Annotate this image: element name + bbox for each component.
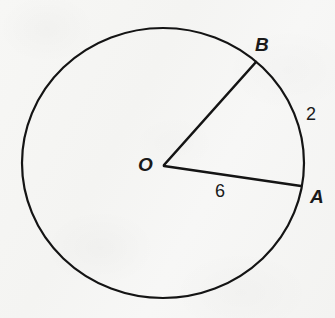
point-label-o: O [138, 155, 153, 174]
geometry-canvas [0, 0, 335, 318]
main-circle [22, 28, 304, 298]
radius-line-oa [164, 166, 301, 186]
point-label-a: A [310, 187, 324, 206]
radius-measure-label: 6 [215, 182, 225, 200]
point-label-b: B [255, 35, 269, 54]
geometry-figure: O A B 6 2 [0, 0, 335, 318]
radius-line-ob [164, 62, 256, 165]
arc-measure-label: 2 [306, 105, 316, 123]
